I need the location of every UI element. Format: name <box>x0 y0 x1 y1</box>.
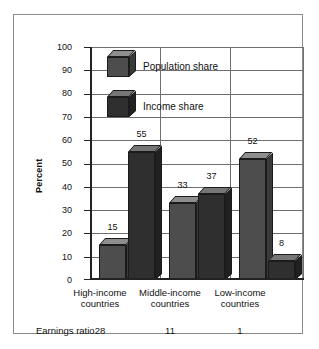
x-axis-line <box>90 278 304 280</box>
bar-income-middle-income[interactable] <box>198 194 225 280</box>
bar-value-income-middle-income: 37 <box>198 171 225 181</box>
y-tick-label-30: 30 <box>42 206 72 215</box>
y-tick-label-10: 10 <box>42 253 72 262</box>
legend-label-population-share: Population share <box>143 61 218 72</box>
x-category-label-middle-income: Middle-income countries <box>130 287 210 309</box>
bar-value-population-high-income: 15 <box>99 222 126 232</box>
x-category-line1: High-income <box>60 287 140 298</box>
x-category-label-high-income: High-income countries <box>60 287 140 309</box>
plot-top-border <box>90 47 304 48</box>
bar-value-population-low-income: 52 <box>239 136 266 146</box>
y-tick-label-60: 60 <box>42 136 72 145</box>
bar-front-face <box>198 194 225 280</box>
bar-side-face <box>225 188 232 280</box>
x-category-line2: countries <box>60 298 140 309</box>
y-tick-label-20: 20 <box>42 229 72 238</box>
y-tick-label-40: 40 <box>42 183 72 192</box>
bar-front-face <box>239 159 266 280</box>
earnings-ratio-value-low-income: 1 <box>210 325 270 336</box>
legend-swatch-income-share <box>107 97 129 117</box>
y-tick-label-80: 80 <box>42 89 72 98</box>
y-tick-label-100: 100 <box>42 43 72 52</box>
bar-population-high-income[interactable] <box>99 245 126 280</box>
bar-population-middle-income[interactable] <box>169 203 196 280</box>
x-category-line1: Middle-income <box>130 287 210 298</box>
bar-income-high-income[interactable] <box>128 152 155 280</box>
legend-label-income-share: Income share <box>143 101 204 112</box>
y-axis-line <box>90 47 92 280</box>
bar-value-income-high-income: 55 <box>128 129 155 139</box>
y-tick-label-0: 0 <box>42 276 72 285</box>
earnings-ratio-value-high-income: 28 <box>70 325 130 336</box>
earnings-ratio-value-middle-income: 11 <box>140 325 200 336</box>
bar-front-face <box>268 261 295 280</box>
chart-figure: Percent 100 90 80 70 60 50 40 30 20 10 0 <box>0 0 319 349</box>
bar-population-low-income[interactable] <box>239 159 266 280</box>
bar-front-face <box>128 152 155 280</box>
swatch-front-face <box>107 97 129 117</box>
bar-front-face <box>99 245 126 280</box>
x-category-label-low-income: Low-income countries <box>200 287 280 309</box>
bar-side-face <box>155 146 162 280</box>
y-tick-label-90: 90 <box>42 66 72 75</box>
bar-front-face <box>169 203 196 280</box>
x-category-line1: Low-income <box>200 287 280 298</box>
x-category-line2: countries <box>200 298 280 309</box>
figure-frame: Percent 100 90 80 70 60 50 40 30 20 10 0 <box>13 14 303 334</box>
y-tick-label-70: 70 <box>42 113 72 122</box>
x-category-line2: countries <box>130 298 210 309</box>
bar-value-income-low-income: 8 <box>268 238 295 248</box>
bar-value-population-middle-income: 33 <box>169 180 196 190</box>
legend-swatch-population-share <box>107 57 129 77</box>
bar-income-low-income[interactable] <box>268 261 295 280</box>
gridline-60 <box>90 140 304 141</box>
y-tick-label-50: 50 <box>42 159 72 168</box>
swatch-front-face <box>107 57 129 77</box>
plot-area: 15 55 33 37 <box>90 47 304 280</box>
gridline-70 <box>90 117 304 118</box>
